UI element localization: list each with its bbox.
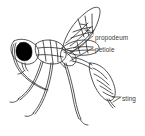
wasp-line-drawing xyxy=(0,0,145,136)
label-sting: sting xyxy=(122,95,136,102)
label-propodeum: propodeum xyxy=(95,34,128,41)
propodeum-icon xyxy=(61,50,77,66)
hindleg-icon xyxy=(60,62,88,125)
foreleg-icon xyxy=(10,62,43,102)
label-petiole: petiole xyxy=(95,46,115,53)
midleg-icon xyxy=(25,63,53,116)
leader-line-propodeum xyxy=(68,36,93,55)
hindwing-icon xyxy=(62,40,99,55)
metasoma-icon xyxy=(89,63,115,101)
forewing-icon xyxy=(63,7,100,51)
compound-eye-icon xyxy=(16,42,32,61)
wasp-anatomy-figure: propodeum petiole sting xyxy=(0,0,145,136)
